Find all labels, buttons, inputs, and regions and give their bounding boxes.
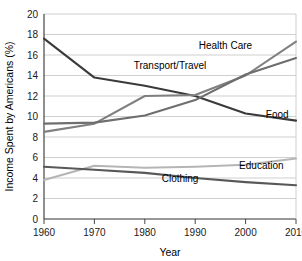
y-tick-label: 14 [27, 70, 39, 81]
x-axis-title: Year [159, 246, 181, 258]
y-tick-label: 12 [27, 91, 39, 102]
x-tick-label: 1960 [33, 227, 56, 238]
y-tick-label: 2 [32, 193, 38, 204]
series-label-health-care: Health Care [199, 40, 253, 51]
chart-container: 02468101214161820 1960197019801990200020… [0, 0, 302, 261]
series-label-transport-travel: Transport/Travel [134, 60, 207, 71]
y-tick-label: 4 [32, 173, 38, 184]
y-tick-label: 10 [27, 111, 39, 122]
line-chart: 02468101214161820 1960197019801990200020… [0, 0, 302, 261]
y-tick-label: 6 [32, 152, 38, 163]
series-label-clothing: Clothing [162, 173, 199, 184]
y-tick-label: 8 [32, 132, 38, 143]
x-axis-tick-labels: 196019701980199020002010 [33, 227, 302, 238]
x-tick-label: 1990 [184, 227, 207, 238]
x-tick-label: 2000 [234, 227, 257, 238]
y-tick-label: 20 [27, 9, 39, 20]
series-label-food: Food [266, 109, 289, 120]
x-tick-label: 1970 [83, 227, 106, 238]
y-axis-title: Income Spent by Americans (%) [3, 42, 15, 192]
x-tick-label: 2010 [285, 227, 302, 238]
y-tick-label: 18 [27, 29, 39, 40]
y-tick-label: 16 [27, 50, 39, 61]
y-axis-tick-labels: 02468101214161820 [27, 9, 39, 225]
gridlines [44, 14, 296, 219]
y-tick-label: 0 [32, 214, 38, 225]
series-label-education: Education [239, 160, 283, 171]
x-axis-tick-marks [44, 219, 296, 224]
x-tick-label: 1980 [134, 227, 157, 238]
